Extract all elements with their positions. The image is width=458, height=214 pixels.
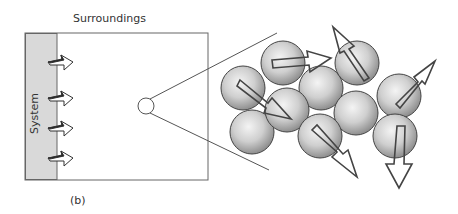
surroundings-label: Surroundings <box>73 12 146 25</box>
molecule <box>261 41 305 85</box>
system-label: System <box>28 93 41 134</box>
magnifier-circle <box>138 98 154 114</box>
molecules <box>221 41 421 158</box>
molecule <box>377 74 421 118</box>
panel-label: (b) <box>70 194 86 207</box>
molecule <box>221 66 265 110</box>
molecule <box>335 41 379 85</box>
system-surroundings-diagram <box>0 0 458 214</box>
